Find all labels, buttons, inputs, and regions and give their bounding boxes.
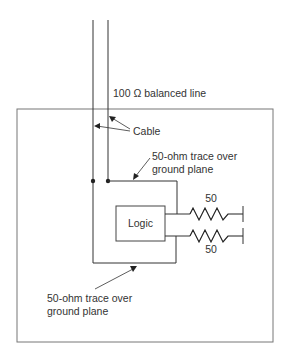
bottom-trace-arrow: [95, 269, 133, 289]
cable-arrowhead-right-icon: [109, 116, 116, 122]
resistor-bottom-value: 50: [205, 243, 217, 255]
logic-label: Logic: [128, 217, 153, 229]
resistor-bottom-icon: [190, 230, 243, 242]
termination-diagram: Logic 50 50 100 Ω balanced line Cable 50…: [0, 0, 287, 359]
top-trace-arrowhead-icon: [133, 173, 139, 180]
balanced-line-label: 100 Ω balanced line: [113, 87, 206, 99]
top-trace-label-line1: 50-ohm trace over: [152, 150, 238, 162]
cable-arrow-right: [112, 118, 130, 129]
cable-arrowhead-left-icon: [94, 123, 100, 129]
bottom-trace-label-line2: ground plane: [47, 305, 108, 317]
bottom-trace-label-line1: 50-ohm trace over: [47, 292, 133, 304]
bottom-trace-arrowhead-icon: [130, 266, 137, 272]
resistor-top-icon: [190, 208, 243, 220]
top-trace-label-line2: ground plane: [152, 163, 213, 175]
cable-arrow-left: [97, 126, 130, 131]
junction-dot-left: [91, 179, 95, 183]
cable-label: Cable: [133, 125, 161, 137]
top-trace-arrow: [135, 158, 150, 177]
resistor-top-value: 50: [205, 192, 217, 204]
